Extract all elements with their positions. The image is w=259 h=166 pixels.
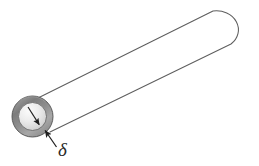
annulus-cross-section bbox=[12, 96, 53, 137]
delta-label: δ bbox=[58, 139, 68, 160]
tube-diagram-svg: δ bbox=[0, 0, 259, 166]
figure-container: δ bbox=[0, 0, 259, 166]
tube-bore bbox=[19, 103, 47, 131]
